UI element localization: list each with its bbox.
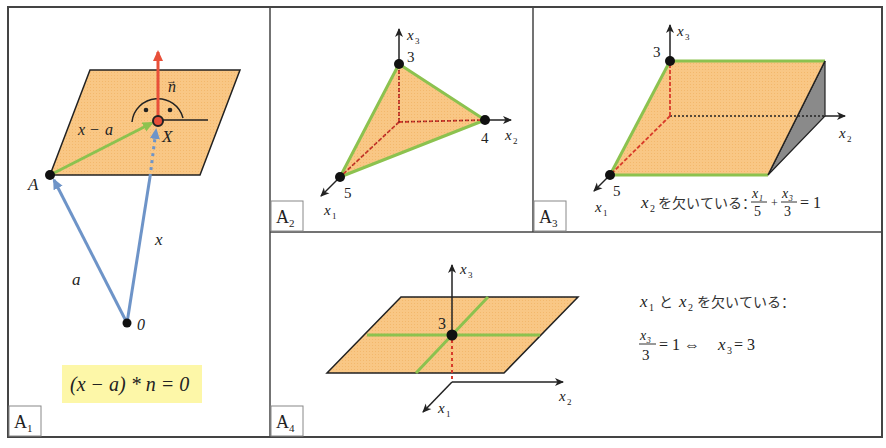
intercept-x1-label: 5 bbox=[344, 185, 352, 201]
axis-x3-label: x bbox=[676, 23, 684, 39]
origin-label: 0 bbox=[137, 316, 145, 333]
equation-rhs: = 1 bbox=[800, 194, 821, 211]
panel-tag: A bbox=[276, 412, 289, 432]
caption-text: を欠いている： bbox=[658, 195, 756, 211]
axis-x1-sub: 1 bbox=[603, 208, 608, 218]
caption-text: を欠いている： bbox=[697, 294, 795, 310]
fraction-denominator: 3 bbox=[642, 347, 650, 363]
vector-a-label: a bbox=[72, 270, 81, 289]
caption-variable-1: x bbox=[639, 292, 648, 311]
vector-x-label: x bbox=[154, 230, 163, 249]
panel-tag-sub: 2 bbox=[289, 217, 295, 229]
panel-a1: n → x − a X A a x 0 (x − a) * n = 0 A 1 bbox=[9, 52, 240, 436]
intercept-x1 bbox=[335, 172, 345, 182]
fraction-1-denominator: 5 bbox=[754, 204, 761, 219]
position-vector-x bbox=[127, 177, 150, 323]
intercept-x1 bbox=[605, 170, 615, 180]
caption-variable: x bbox=[640, 193, 649, 212]
plane-equation-a4: x₃ 3 = 1 ⇔ x 3 = 3 bbox=[639, 328, 755, 363]
axis-x1-sub: 1 bbox=[332, 211, 337, 221]
origin-point bbox=[123, 319, 132, 328]
caption-variable-2-sub: 2 bbox=[688, 302, 693, 313]
plane-normal-equation: (x − a) * n = 0 bbox=[70, 373, 189, 396]
axis-x2-sub: 2 bbox=[847, 134, 852, 144]
position-vector-a bbox=[54, 180, 127, 323]
panel-a3: 3 5 x 3 x 2 x 1 x 2 を欠いている： x₁ 5 + x₃ 3 … bbox=[534, 23, 852, 231]
intercept-x3 bbox=[447, 330, 458, 341]
equation-rhs: = 3 bbox=[734, 336, 755, 353]
intercept-x3 bbox=[394, 59, 404, 69]
difference-vector-label-minus: − bbox=[90, 121, 99, 138]
vector-arrow-glyph: → bbox=[166, 74, 177, 86]
point-x-label: X bbox=[161, 127, 173, 146]
axis-x3-sub: 3 bbox=[468, 270, 473, 280]
intercept-x3 bbox=[665, 56, 675, 66]
axis-x2-label: x bbox=[838, 125, 846, 141]
axis-x3-sub: 3 bbox=[685, 32, 690, 42]
caption-variable-2: x bbox=[678, 292, 687, 311]
axis-x1-label: x bbox=[594, 199, 602, 215]
equation-variable: x bbox=[717, 335, 726, 354]
intercept-x3-label: 3 bbox=[438, 315, 446, 332]
axis-x2-sub: 2 bbox=[567, 397, 572, 407]
point-a-label: A bbox=[27, 175, 39, 194]
intercept-x3-label: 3 bbox=[407, 49, 415, 65]
plus-sign: + bbox=[771, 196, 778, 210]
caption-and: と bbox=[659, 294, 673, 310]
axis-x2-label: x bbox=[558, 388, 566, 404]
panel-tag-sub: 4 bbox=[289, 422, 295, 434]
fraction-numerator: x₃ bbox=[639, 328, 651, 343]
panel-a2: 3 4 5 x 3 x 2 x 1 A 2 bbox=[271, 27, 518, 231]
difference-vector-label-a: a bbox=[105, 121, 113, 138]
axis-x1-label: x bbox=[437, 400, 445, 416]
plane-slanted bbox=[610, 61, 825, 175]
axis-x3-label: x bbox=[459, 261, 467, 277]
plane-triangle bbox=[340, 64, 485, 177]
fraction-1-numerator: x₁ bbox=[751, 186, 763, 201]
intercept-x2-label: 4 bbox=[481, 130, 489, 146]
panel-tag: A bbox=[276, 207, 289, 227]
intercept-x1-label: 5 bbox=[613, 183, 621, 199]
plane-equation-a3: x₁ 5 + x₃ 3 = 1 bbox=[751, 186, 821, 219]
axis-x3-sub: 3 bbox=[415, 36, 420, 46]
point-a bbox=[45, 170, 55, 180]
point-x bbox=[153, 116, 163, 126]
axis-x3-label: x bbox=[406, 27, 414, 43]
panel-tag: A bbox=[539, 207, 552, 227]
fraction-2-numerator: x₃ bbox=[781, 186, 793, 201]
caption-a4: x 1 と x 2 を欠いている： bbox=[639, 292, 795, 313]
panel-tag: A bbox=[14, 412, 27, 432]
axis-x1-sub: 1 bbox=[446, 409, 451, 419]
caption-variable-1-sub: 1 bbox=[649, 302, 654, 313]
panel-tag-sub: 3 bbox=[552, 217, 558, 229]
axis-x1-label: x bbox=[323, 202, 331, 218]
plane-equation-figure: n → x − a X A a x 0 (x − a) * n = 0 A 1 bbox=[0, 0, 886, 448]
panel-tag-sub: 1 bbox=[27, 422, 33, 434]
equation-equivalence: = 1 ⇔ bbox=[659, 336, 700, 353]
fraction-2-denominator: 3 bbox=[784, 204, 791, 219]
axis-x2-sub: 2 bbox=[513, 136, 518, 146]
difference-vector-label-x: x bbox=[77, 121, 85, 138]
equation-variable-sub: 3 bbox=[727, 345, 732, 356]
intercept-x3-label: 3 bbox=[653, 44, 661, 60]
caption-variable-sub: 2 bbox=[650, 203, 655, 214]
panel-a4: 3 x 3 x 2 x 1 x 1 と x 2 を欠いている： x₃ 3 = 1… bbox=[271, 261, 795, 436]
axis-x2-label: x bbox=[504, 127, 512, 143]
intercept-x2 bbox=[480, 115, 490, 125]
